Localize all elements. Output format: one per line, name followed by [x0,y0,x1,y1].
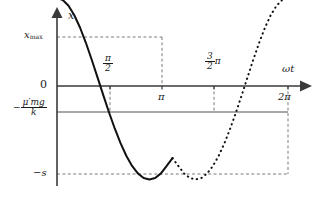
y-tick-label-friction: −μ′mgk [13,98,47,117]
friction-numerator: μ′mg [21,98,47,107]
y-axis-arrow-icon [52,7,63,18]
x-max-subscript: max [30,33,43,40]
three-halves-pi-suffix: π [215,56,221,66]
y-tick-label-zero: 0 [40,79,47,90]
solid-displacement-curve [57,0,173,179]
three-halves-numerator: 3 [205,52,215,61]
y-axis-label: x [68,10,74,21]
y-tick-label-x-max: xmax [24,30,43,40]
x-tick-label-half-pi: π2 [103,54,113,73]
friction-minus-sign: − [13,102,21,112]
x-axis-label: ωt [282,64,294,74]
x-tick-label-pi: π [158,92,165,102]
friction-denominator: k [21,107,47,117]
x-axis-arrow-icon [300,81,312,92]
y-tick-label-minus-s: −s [33,168,47,178]
half-pi-denominator: 2 [103,63,113,73]
x-tick-label-three-halves-pi: 32π [205,52,221,71]
x-tick-label-two-pi: 2π [278,92,291,102]
friction-fraction: μ′mgk [21,98,47,117]
three-halves-denominator: 2 [205,61,215,71]
dashed-displacement-curve [173,0,289,179]
half-pi-numerator: π [103,54,113,63]
half-pi-fraction: π2 [103,54,113,73]
physics-plot-figure: x ωt xmax 0 −μ′mgk −s π2 π 32π 2π [0,0,321,203]
three-halves-fraction: 32 [205,52,215,71]
